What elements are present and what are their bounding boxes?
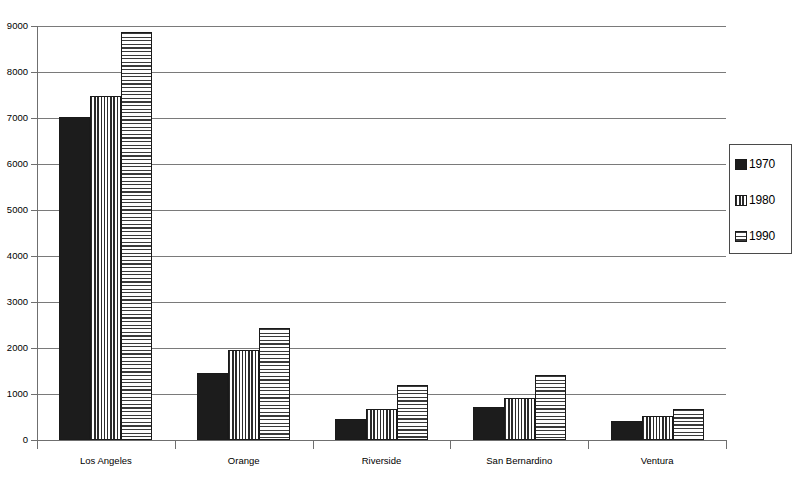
bar-1970-orange <box>197 373 228 440</box>
vertical-stripe-swatch <box>735 195 747 206</box>
y-axis-label: 0 <box>0 435 28 445</box>
legend-item-1990: 1990 <box>735 229 775 243</box>
y-axis-label: 8000 <box>0 67 28 77</box>
gridline <box>37 26 726 27</box>
y-axis-tick <box>31 72 38 73</box>
y-axis-tick <box>31 210 38 211</box>
y-axis-label: 7000 <box>0 113 28 123</box>
bar-1970-los-angeles <box>59 117 90 440</box>
y-axis-label: 5000 <box>0 205 28 215</box>
x-axis-tick <box>313 440 314 449</box>
y-axis-tick <box>31 394 38 395</box>
x-axis-label: Ventura <box>588 455 726 466</box>
solid-black-swatch <box>735 159 747 170</box>
legend-item-1980: 1980 <box>735 193 775 207</box>
y-axis-label: 3000 <box>0 297 28 307</box>
x-axis-tick <box>37 440 38 449</box>
bar-1990-san-bernardino <box>535 375 566 440</box>
bar-1980-orange <box>228 350 259 440</box>
bar-1990-los-angeles <box>121 32 152 440</box>
y-axis-label: 2000 <box>0 343 28 353</box>
y-axis-tick <box>31 118 38 119</box>
bar-1980-san-bernardino <box>504 398 535 440</box>
y-axis-tick <box>31 256 38 257</box>
y-axis-tick <box>31 26 38 27</box>
x-axis-label: Riverside <box>313 455 451 466</box>
y-axis-line <box>37 26 38 441</box>
y-axis-label: 6000 <box>0 159 28 169</box>
chart-legend: 1970 1980 1990 <box>729 144 792 254</box>
y-axis-tick <box>31 164 38 165</box>
y-axis-tick <box>31 302 38 303</box>
x-axis-tick <box>450 440 451 449</box>
bar-1970-ventura <box>611 421 642 440</box>
bar-chart: 0100020003000400050006000700080009000 Lo… <box>0 0 812 484</box>
legend-label-1970: 1970 <box>749 158 775 171</box>
y-axis-label: 1000 <box>0 389 28 399</box>
bar-1980-ventura <box>642 416 673 440</box>
legend-label-1980: 1980 <box>749 194 775 207</box>
bar-1980-riverside <box>366 409 397 440</box>
y-axis-label: 4000 <box>0 251 28 261</box>
x-axis-tick <box>175 440 176 449</box>
bar-1990-riverside <box>397 385 428 440</box>
y-axis-label: 9000 <box>0 21 28 31</box>
bar-1970-riverside <box>335 419 366 440</box>
x-axis-label: San Bernardino <box>450 455 588 466</box>
x-axis-label: Los Angeles <box>37 455 175 466</box>
x-axis-tick <box>726 440 727 449</box>
bar-1980-los-angeles <box>90 96 121 440</box>
x-axis-line <box>37 440 726 441</box>
plot-area <box>37 26 726 440</box>
bar-1990-ventura <box>673 409 704 440</box>
horizontal-stripe-swatch <box>735 231 747 242</box>
bar-1990-orange <box>259 328 290 440</box>
bar-1970-san-bernardino <box>473 407 504 440</box>
legend-label-1990: 1990 <box>749 230 775 243</box>
legend-item-1970: 1970 <box>735 157 775 171</box>
y-axis-tick <box>31 348 38 349</box>
x-axis-label: Orange <box>175 455 313 466</box>
x-axis-tick <box>588 440 589 449</box>
